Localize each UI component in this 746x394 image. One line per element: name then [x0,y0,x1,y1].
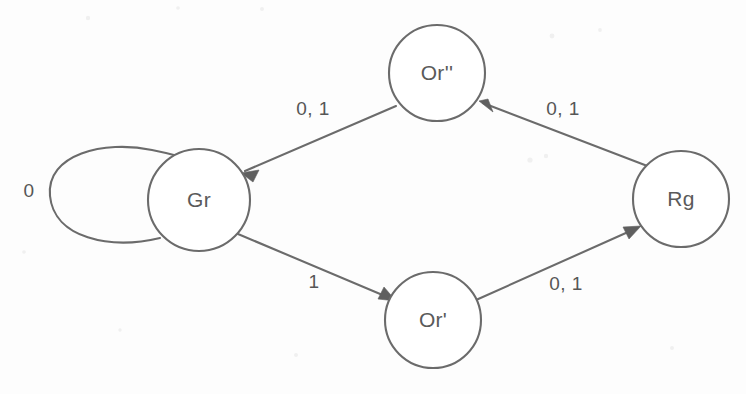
state-diagram-canvas: Gr Or'' Or' Rg 0 1 0, 1 0, 1 0, 1 [0,0,746,394]
state-node-rg-label: Rg [667,187,694,210]
state-node-or-double-prime[interactable]: Or'' [389,25,485,121]
state-node-gr-label: Gr [187,188,211,211]
state-node-or-prime[interactable]: Or' [385,272,481,368]
edge-label-or-double-prime-to-gr: 0, 1 [296,98,329,119]
state-machine-diagram: Gr Or'' Or' Rg 0 1 0, 1 0, 1 0, 1 [0,0,746,394]
state-node-gr[interactable]: Gr [148,149,250,251]
state-node-or-prime-label: Or' [419,308,447,331]
state-node-rg[interactable]: Rg [633,151,729,247]
edge-label-or-prime-to-rg: 0, 1 [549,273,582,294]
state-node-or-double-prime-label: Or'' [421,61,454,84]
edge-label-gr-self-loop: 0 [24,180,35,201]
scan-noise [22,6,674,357]
edge-label-gr-to-or-prime: 1 [309,271,320,292]
edge-label-rg-to-or-double-prime: 0, 1 [546,98,579,119]
